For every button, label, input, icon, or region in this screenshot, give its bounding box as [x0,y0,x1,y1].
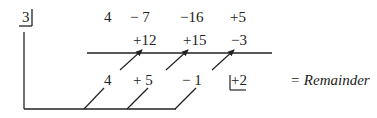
result-2: + 5 [133,73,153,88]
remainder-label: = Remainder [290,73,370,88]
result-1: 4 [104,73,112,88]
product-2: +15 [183,33,206,48]
diag-line-1 [84,88,104,109]
diag-line-3 [175,88,196,109]
coef-1: 4 [104,10,112,25]
coef-4: +5 [230,10,246,25]
product-1: +12 [133,33,156,48]
result-3: − 1 [182,73,202,88]
coef-2: − 7 [130,10,150,25]
diag-line-2 [127,88,148,109]
coef-3: −16 [180,10,203,25]
divisor: 3 [22,10,30,25]
product-3: −3 [231,33,247,48]
remainder-value: +2 [231,73,247,88]
